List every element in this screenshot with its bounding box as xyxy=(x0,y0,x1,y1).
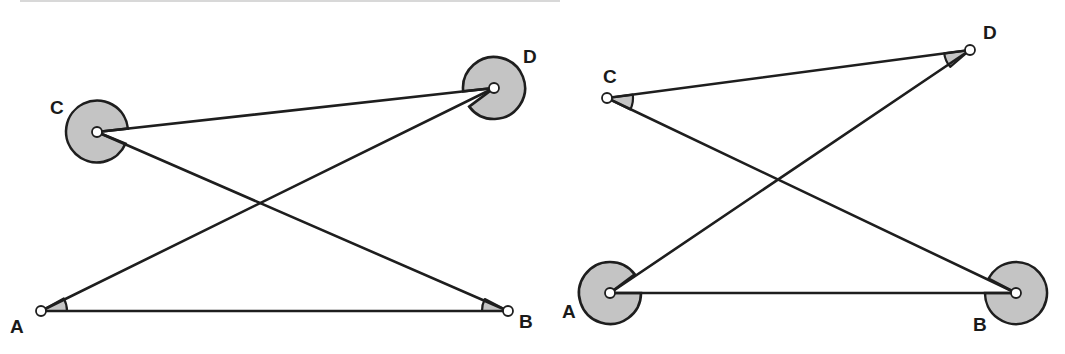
right-point-C xyxy=(602,93,612,103)
right-label-B: B xyxy=(973,314,987,335)
right-point-B xyxy=(1011,288,1021,298)
diagram-canvas: A B C D A B C D xyxy=(0,0,1065,354)
right-label-C: C xyxy=(603,66,617,87)
left-label-D: D xyxy=(523,46,537,67)
left-point-A xyxy=(36,306,46,316)
right-label-A: A xyxy=(562,301,576,322)
left-segment-CB xyxy=(97,132,508,311)
left-label-B: B xyxy=(519,311,533,332)
right-figure: A B C D xyxy=(562,22,1047,335)
left-point-C xyxy=(92,127,102,137)
right-segment-CB xyxy=(607,98,1016,293)
right-label-D: D xyxy=(983,22,997,43)
right-point-D xyxy=(965,45,975,55)
left-label-C: C xyxy=(50,97,64,118)
left-figure: A B C D xyxy=(10,46,537,337)
left-point-B xyxy=(503,306,513,316)
right-segment-AD xyxy=(610,50,970,293)
right-segment-CD xyxy=(607,50,970,98)
left-point-D xyxy=(489,83,499,93)
right-point-A xyxy=(605,288,615,298)
left-segment-CD xyxy=(97,88,494,132)
cropped-caption-fragment xyxy=(20,0,560,2)
left-label-A: A xyxy=(10,316,24,337)
